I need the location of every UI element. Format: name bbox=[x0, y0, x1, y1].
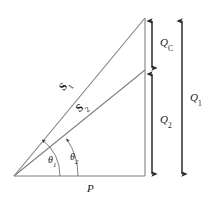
power-triangle-figure: S1 S2 θ1 θ2 P QC Q2 Q1 bbox=[0, 0, 222, 201]
label-qc: QC bbox=[160, 37, 173, 51]
label-theta2: θ2 bbox=[70, 152, 78, 165]
vector-line-s2 bbox=[14, 70, 145, 176]
label-q2: Q2 bbox=[160, 114, 172, 128]
vector-line-s1 bbox=[14, 18, 145, 176]
label-p: P bbox=[87, 183, 94, 194]
label-theta1: θ1 bbox=[48, 155, 56, 168]
label-q1: Q1 bbox=[190, 92, 202, 106]
figure-canvas bbox=[0, 0, 222, 201]
